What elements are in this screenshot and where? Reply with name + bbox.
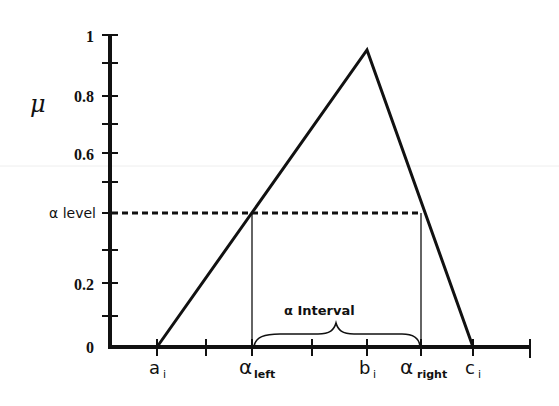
y-tick-label-0: 0 bbox=[86, 339, 94, 356]
y-tick-label-1: 1 bbox=[86, 28, 94, 45]
y-tick-label-alpha-level: α level bbox=[49, 205, 96, 221]
x-label-alpha-left-subscript: left bbox=[254, 368, 275, 381]
x-label-c: c bbox=[465, 357, 475, 378]
x-label-b: b bbox=[359, 357, 370, 378]
x-label-alpha-right-subscript: right bbox=[417, 368, 447, 381]
x-label-b-subscript: i bbox=[373, 368, 376, 381]
x-label-a: a bbox=[149, 357, 160, 378]
x-label-a-subscript: i bbox=[163, 368, 166, 381]
y-tick-label-0.2: 0.2 bbox=[74, 276, 94, 293]
y-tick-label-0.6: 0.6 bbox=[74, 146, 94, 163]
x-label-alpha-right: α bbox=[400, 355, 413, 379]
x-label-c-subscript: i bbox=[478, 368, 481, 381]
y-axis-label-mu: μ bbox=[30, 90, 46, 118]
x-label-alpha-left: α bbox=[239, 355, 252, 379]
membership-diagram: 1 0.8 0.6 α level 0.2 0 μ a i α left b i… bbox=[0, 0, 559, 406]
alpha-interval-label: α Interval bbox=[284, 303, 355, 318]
alpha-interval-brace bbox=[254, 323, 420, 346]
y-tick-label-0.8: 0.8 bbox=[74, 88, 94, 105]
